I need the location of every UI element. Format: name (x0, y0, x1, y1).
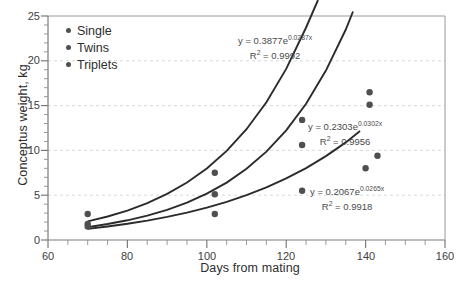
data-point (212, 191, 218, 197)
equation-exponent: 0.0265x (360, 185, 384, 192)
data-point (362, 165, 368, 171)
legend-item-triplets[interactable]: Triplets (66, 58, 118, 72)
legend-marker-icon (66, 28, 71, 33)
equation-text: y = 0.2067e (310, 186, 360, 197)
data-point (299, 117, 305, 123)
x-axis-title: Days from mating (120, 261, 380, 275)
r2-label: R (322, 201, 329, 212)
r2-value: = 0.9956 (330, 136, 370, 147)
equation-text: y = 0.2303e (308, 121, 358, 132)
data-point (85, 211, 91, 217)
data-point (212, 170, 218, 176)
data-point (366, 102, 372, 108)
equation-exponent: 0.0302x (358, 120, 382, 127)
data-point (299, 142, 305, 148)
equation-annotation-single: y = 0.3877e0.0287x R2 = 0.9992 (238, 32, 312, 62)
data-point (85, 223, 91, 229)
x-tick-label-160: 160 (430, 250, 460, 262)
legend-item-single[interactable]: Single (66, 24, 112, 38)
legend-label: Single (77, 24, 112, 38)
equation-annotation-twins: y = 0.2303e0.0302x R2 = 0.9956 (308, 118, 382, 148)
r2-label: R (320, 136, 327, 147)
x-tick-label-60: 60 (34, 250, 62, 262)
r2-value: = 0.9918 (332, 201, 372, 212)
equation-exponent: 0.0287x (288, 34, 312, 41)
y-tick-label-0: 0 (26, 234, 40, 246)
y-tick-label-25: 25 (20, 10, 40, 22)
r2-value: = 0.9992 (260, 50, 300, 61)
data-point (374, 153, 380, 159)
equation-text: y = 0.3877e (238, 35, 288, 46)
data-point (212, 211, 218, 217)
r2-label: R (250, 50, 257, 61)
equation-annotation-triplets: y = 0.2067e0.0265x R2 = 0.9918 (310, 183, 384, 213)
x-axis-minor-ticks (68, 240, 425, 245)
legend-item-twins[interactable]: Twins (66, 41, 109, 55)
data-point (366, 89, 372, 95)
legend-label: Twins (77, 41, 109, 55)
conceptus-weight-chart: 0 5 10 15 20 25 60 80 100 120 140 160 Co… (0, 0, 466, 283)
data-point (299, 188, 305, 194)
legend-marker-icon (66, 45, 71, 50)
legend-label: Triplets (77, 58, 118, 72)
y-axis-title: Conceptus weight, kg (16, 40, 30, 210)
y-axis-major-ticks (41, 16, 48, 240)
legend-marker-icon (66, 62, 71, 67)
